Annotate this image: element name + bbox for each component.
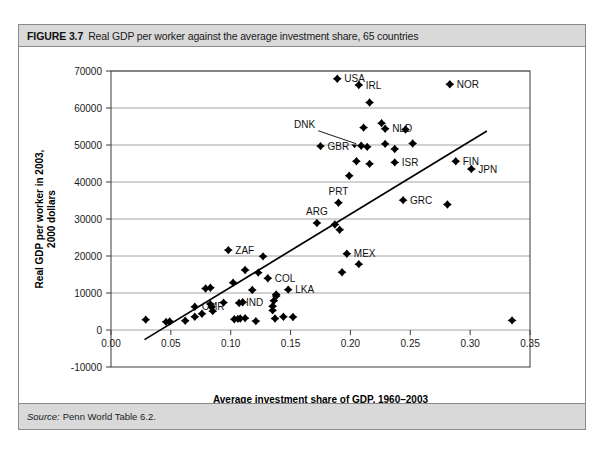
label-leader-arrow [351,144,357,148]
data-point [342,250,351,258]
data-point [334,199,343,207]
scatter-plot: -100000100002000030000400005000060000700… [19,47,587,404]
chart-area: -100000100002000030000400005000060000700… [19,47,585,404]
data-point-label: FIN [463,156,479,167]
data-point [408,139,417,147]
figure-caption-text: Real GDP per worker against the average … [88,30,418,42]
source-label: Source: [27,411,60,422]
y-axis-title-line1: Real GDP per worker in 2003, [34,149,45,288]
x-tick-label: 0.35 [520,338,540,349]
figure-container: FIGURE 3.7 Real GDP per worker against t… [18,24,586,430]
x-tick-label: 0.10 [221,338,241,349]
data-point [263,274,272,282]
data-point [259,252,268,260]
y-tick-label: 20000 [74,251,102,262]
y-tick-label: 60000 [74,103,102,114]
y-tick-label: 40000 [74,177,102,188]
data-point-label: GRC [410,195,432,206]
figure-source-bar: Source: Penn World Table 6.2. [19,403,585,429]
data-point-label: IRL [366,80,382,91]
data-point [268,306,277,314]
x-tick-label: 0.15 [281,338,301,349]
data-point-label: ARG [306,206,328,217]
data-point-label: PRT [329,186,349,197]
figure-number: FIGURE 3.7 [27,30,83,42]
y-tick-label: 30000 [74,214,102,225]
data-point [443,200,452,208]
y-tick-label: 70000 [74,66,102,77]
data-point [399,196,408,204]
y-tick-label: 0 [96,325,102,336]
data-point [181,317,190,325]
data-point [345,172,354,180]
data-point [251,317,260,325]
data-point [313,219,322,227]
y-tick-label: 10000 [74,288,102,299]
data-point [206,284,215,292]
data-point-label: COL [275,273,296,284]
data-point [224,246,233,254]
data-point-label: LKA [295,284,314,295]
data-point [141,315,150,323]
data-point [359,123,368,131]
data-point [365,160,374,168]
data-point-label: JPN [478,164,497,175]
data-point-label: IND [246,297,263,308]
data-point [316,142,325,150]
data-point [363,143,372,151]
data-point [381,140,390,148]
data-point [390,145,399,153]
data-point [279,312,288,320]
y-tick-label: -10000 [71,362,103,373]
data-point [335,226,344,234]
data-point [390,158,399,166]
x-tick-label: 0.00 [101,338,121,349]
data-point [241,314,250,322]
data-point-label: USA [344,73,365,84]
data-point [333,75,342,83]
data-point [357,142,366,150]
data-point-label: DNK [294,119,315,130]
source-value: Penn World Table 6.2. [63,411,156,422]
data-point [508,316,517,324]
data-point-label: NOR [457,79,479,90]
data-point [338,268,347,276]
data-point [190,302,199,310]
data-point [271,314,280,322]
x-tick-label: 0.30 [460,338,480,349]
x-tick-label: 0.20 [341,338,361,349]
data-point [254,268,263,276]
data-point [365,98,374,106]
data-point [352,157,361,165]
x-tick-label: 0.05 [161,338,181,349]
y-tick-label: 50000 [74,140,102,151]
data-points-group: USAIRLNORNLDDNKGBRISRFINJPNPRTGRCARGZAFM… [141,73,516,326]
data-point-label: ISR [402,157,419,168]
data-point-label: GBR [328,141,350,152]
data-point-label: ZAF [235,245,254,256]
x-tick-label: 0.25 [401,338,421,349]
data-point [445,80,454,88]
data-point [289,313,298,321]
data-point-label: MEX [354,248,376,259]
data-point [354,260,363,268]
figure-caption-bar: FIGURE 3.7 Real GDP per worker against t… [19,25,585,47]
data-point [229,278,238,286]
data-point [451,157,460,165]
y-axis-title-line2: 2000 dollars [46,190,57,248]
data-point [241,266,250,274]
